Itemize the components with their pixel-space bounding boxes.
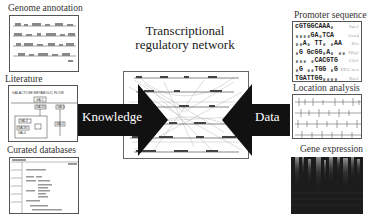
svg-text:GAL4: GAL4 xyxy=(20,119,28,123)
location-tracks-graphic xyxy=(293,95,362,139)
promoter-row: TGATTGG₀₀₀₀Bas1 xyxy=(295,75,359,82)
svg-text:GAL80: GAL80 xyxy=(36,105,46,109)
svg-text:GALACTOSE METABOLIC FLOW: GALACTOSE METABOLIC FLOW xyxy=(12,91,64,95)
data-arrow-label: Data xyxy=(255,110,280,124)
pathway-diagram-graphic: GALACTOSE METABOLIC FLOW GAL2GAL80GAL3 G… xyxy=(9,86,78,142)
promoter-sequence-panel: cGTGGCAAA₀Spo1 ₀₀₀₀GA₀TCAGcn4 ₀₀A₀ TT₀ ₀… xyxy=(292,21,362,82)
promoter-row: ₀₀₀ ₀CACGTGCbf1 xyxy=(295,57,359,66)
curated-databases-label: Curated databases xyxy=(7,145,76,155)
promoter-row: ₀G ₀₀TGG ₀GRPG box xyxy=(295,66,359,75)
database-page-graphic xyxy=(10,158,79,214)
svg-text:GAL4: GAL4 xyxy=(56,122,64,126)
promoter-sequence-label: Promoter sequence xyxy=(294,10,367,20)
promoter-row: ₀G GcGG₀A₀ ₀₀Mig1 xyxy=(295,49,359,58)
network-title-line1: Transcriptional xyxy=(120,24,250,38)
svg-text:GAL3: GAL3 xyxy=(57,105,65,109)
gene-expression-heatmap xyxy=(291,157,363,214)
promoter-row: ₀₀A₀ TT₀ ₀AARfx xyxy=(295,40,359,49)
promoter-row: ₀₀₀₀GA₀TCAGcn4 xyxy=(295,32,359,41)
svg-text:GAL4: GAL4 xyxy=(18,131,26,135)
location-analysis-label: Location analysis xyxy=(293,83,360,93)
curated-databases-panel xyxy=(9,157,79,214)
genome-annotation-panel xyxy=(9,15,79,72)
expression-heatmap-graphic xyxy=(291,157,363,214)
genome-annotation-label: Genome annotation xyxy=(8,3,83,13)
gene-expression-label: Gene expression xyxy=(300,144,363,154)
knowledge-arrow-label: Knowledge xyxy=(82,110,142,124)
network-title-line2: regulatory network xyxy=(120,38,250,52)
svg-text:GAL80: GAL80 xyxy=(18,126,28,130)
genome-track-graphic xyxy=(10,16,79,72)
promoter-row: cGTGGCAAA₀Spo1 xyxy=(295,23,359,32)
network-title: Transcriptional regulatory network xyxy=(120,24,250,52)
literature-label: Literature xyxy=(5,74,42,84)
location-analysis-panel xyxy=(292,94,362,139)
literature-panel: GALACTOSE METABOLIC FLOW GAL2GAL80GAL3 G… xyxy=(8,85,78,142)
svg-text:GAL2: GAL2 xyxy=(36,98,44,102)
